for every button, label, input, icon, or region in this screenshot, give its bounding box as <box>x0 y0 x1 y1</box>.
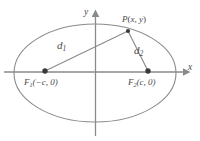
ellipse-foci-figure: y x d1 d2 P(x, y) F1(−c, 0) F2(c, 0) <box>0 0 200 141</box>
focus-marker-f1 <box>42 68 47 73</box>
segment-label-d1: d1 <box>57 40 66 53</box>
y-axis-arrowhead <box>92 10 100 18</box>
x-axis-label: x <box>188 63 192 73</box>
d1-subscript: 1 <box>63 44 67 53</box>
focus-marker-f2 <box>145 68 150 73</box>
f1-coords: (−c, 0) <box>33 77 58 87</box>
focus-label-f2: F2(c, 0) <box>128 78 156 88</box>
d2-subscript: 2 <box>140 49 144 58</box>
segment-label-d2: d2 <box>134 45 143 58</box>
point-marker-p <box>126 29 130 33</box>
focus-label-f1: F1(−c, 0) <box>24 78 58 88</box>
y-axis-label: y <box>84 8 88 18</box>
f2-coords: (c, 0) <box>137 77 156 87</box>
p-paren-close: ) <box>143 14 146 24</box>
figure-canvas <box>0 0 200 141</box>
point-label-p: P(x, y) <box>122 15 146 24</box>
